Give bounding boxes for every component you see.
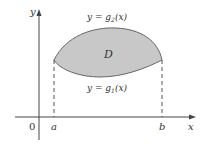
a-label: a: [51, 121, 57, 132]
b-label: b: [159, 121, 165, 132]
upper-curve-suffix: (x): [115, 12, 128, 22]
diagram-canvas: y 0 a b x D y = g2(x) y = g1(x): [0, 0, 203, 144]
region-label: D: [103, 48, 113, 61]
y-axis-arrow-icon: [37, 9, 42, 16]
lower-curve-suffix: (x): [115, 83, 128, 93]
origin-label: 0: [29, 121, 35, 132]
x-axis-arrow-icon: [189, 115, 196, 120]
upper-curve-prefix: y = g: [86, 12, 111, 22]
region-diagram: y 0 a b x D y = g2(x) y = g1(x): [0, 0, 203, 144]
upper-curve-label: y = g2(x): [86, 12, 128, 23]
y-axis-label: y: [29, 6, 36, 17]
x-axis-label: x: [188, 121, 194, 132]
lower-curve-prefix: y = g: [86, 83, 111, 93]
lower-curve-label: y = g1(x): [86, 83, 128, 94]
